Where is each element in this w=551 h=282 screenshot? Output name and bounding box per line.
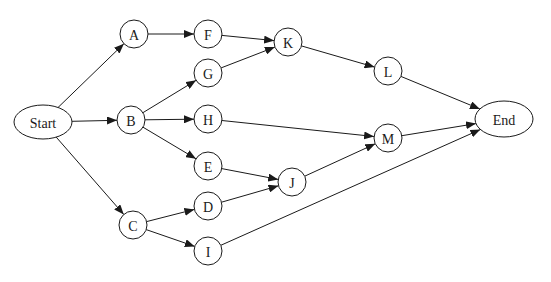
node-label: K [283,36,293,51]
node-end: End [475,101,533,137]
node-label: F [204,28,212,43]
edge-g-to-k [221,47,275,68]
edge-b-to-e [143,127,196,159]
node-label: C [128,219,137,234]
edge-start-to-a [58,44,124,108]
node-f: F [194,20,222,48]
node-m: M [374,124,402,152]
node-label: H [203,113,213,128]
node-e: E [194,152,222,180]
node-label: L [384,65,393,80]
node-h: H [194,105,222,133]
edge-m-to-end [402,124,476,136]
node-a: A [120,20,148,48]
node-l: L [374,57,402,85]
node-label: M [382,132,395,147]
node-c: C [119,211,147,239]
edge-b-to-h [145,119,194,120]
network-diagram: StartABCFGHEDIKJLMEnd [0,0,551,282]
edge-d-to-j [222,186,279,202]
edge-start-to-c [56,137,124,214]
node-d: D [194,192,222,220]
node-label: E [204,160,213,175]
node-label: I [206,245,211,260]
node-g: G [194,59,222,87]
node-label: J [289,176,295,191]
node-label: Start [30,116,57,131]
edge-j-to-m [305,144,376,176]
edge-i-to-end [221,130,481,246]
edge-c-to-d [147,209,195,221]
edge-k-to-l [301,46,374,67]
node-label: D [203,200,213,215]
node-label: G [203,67,213,82]
node-i: I [194,237,222,265]
node-k: K [274,28,302,56]
edges-layer [56,34,480,246]
edge-e-to-j [222,169,278,180]
edge-f-to-k [222,35,274,40]
edge-h-to-m [222,121,374,137]
node-label: B [126,114,135,129]
nodes-layer: StartABCFGHEDIKJLMEnd [14,20,533,265]
node-b: B [117,106,145,134]
node-j: J [278,168,306,196]
edge-l-to-end [401,76,480,109]
edge-b-to-g [143,80,196,112]
edge-start-to-b [72,120,117,121]
node-start: Start [14,105,72,139]
node-label: A [129,28,140,43]
node-label: End [493,113,516,128]
edge-c-to-i [146,230,195,247]
